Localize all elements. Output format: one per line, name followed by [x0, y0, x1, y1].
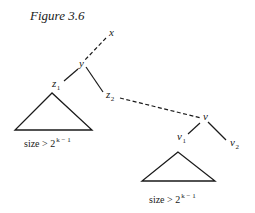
edge-y-z2 [86, 67, 103, 92]
node-label-v2: v2 [230, 136, 239, 151]
node-label-y: y [78, 57, 84, 69]
node-label-z1: z1 [51, 77, 61, 92]
figure-title: Figure 3.6 [29, 8, 85, 23]
node-label-x: x [108, 26, 114, 38]
edge-x-y [84, 38, 106, 61]
node-label-z2: z2 [105, 88, 115, 103]
subtree-triangle-v1 [142, 152, 215, 181]
subtree-triangle-z1 [15, 93, 92, 130]
edge-v-v1 [188, 123, 200, 134]
node-label-v1: v1 [177, 130, 186, 145]
edge-v-v2 [208, 122, 226, 140]
subtree-size-label-z1: size > 2k − 1 [24, 136, 71, 149]
tree-diagram: Figure 3.6 x y z1 z2 v v1 v2 size > 2k −… [0, 0, 255, 213]
node-label-v: v [203, 110, 208, 122]
edge-y-z1 [64, 69, 78, 81]
subtree-size-label-v1: size > 2k − 1 [149, 192, 196, 205]
edge-z2-v [120, 98, 201, 118]
